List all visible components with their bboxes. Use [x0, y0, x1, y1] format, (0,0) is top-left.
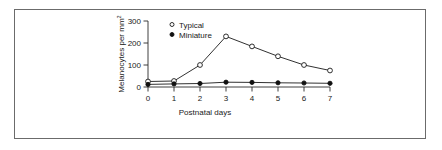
series-typical: [146, 34, 333, 84]
y-tick-label-200: 200: [128, 39, 142, 48]
x-tick-label-2: 2: [198, 94, 203, 103]
figure-container: 300 200 100 0 0 1 2 3 4 5 6 7 Postnatal …: [0, 0, 442, 150]
x-tick-label-1: 1: [172, 94, 177, 103]
data-point-miniature-day0: [146, 82, 150, 86]
data-point-miniature-day3: [224, 80, 228, 84]
x-tick-label-7: 7: [328, 94, 333, 103]
data-point-typical-day4: [250, 44, 255, 49]
y-axis-ticks: [144, 21, 149, 87]
data-point-typical-day2: [198, 63, 203, 68]
x-tick-label-0: 0: [146, 94, 151, 103]
data-point-miniature-day7: [328, 81, 332, 85]
x-axis-ticks: [148, 87, 330, 92]
data-point-typical-day6: [302, 63, 307, 68]
legend-marker-typical: [170, 23, 174, 27]
series-typical-line: [148, 36, 330, 81]
svg-text:Melanocytes per mm2: Melanocytes per mm2: [116, 15, 126, 92]
chart-canvas: 300 200 100 0 0 1 2 3 4 5 6 7 Postnatal …: [0, 0, 442, 150]
x-tick-label-5: 5: [276, 94, 281, 103]
data-point-typical-day3: [224, 34, 229, 39]
legend: Typical Miniature: [170, 21, 212, 40]
y-axis-title-text: Melanocytes per mm: [117, 18, 126, 93]
x-tick-label-3: 3: [224, 94, 229, 103]
data-point-miniature-day5: [276, 81, 280, 85]
x-tick-label-4: 4: [250, 94, 255, 103]
data-point-miniature-day2: [198, 81, 202, 85]
y-tick-label-0: 0: [137, 83, 142, 92]
x-axis-title: Postnatal days: [179, 108, 231, 117]
legend-marker-miniature: [170, 33, 174, 37]
y-axis-title: Melanocytes per mm2: [116, 15, 126, 92]
data-point-miniature-day1: [172, 82, 176, 86]
x-tick-label-6: 6: [302, 94, 307, 103]
y-axis-title-superscript: 2: [116, 15, 122, 18]
data-point-typical-day7: [328, 68, 333, 73]
y-tick-label-300: 300: [128, 17, 142, 26]
legend-label-miniature: Miniature: [179, 31, 212, 40]
y-tick-label-100: 100: [128, 61, 142, 70]
data-point-miniature-day4: [250, 80, 254, 84]
data-point-typical-day5: [276, 54, 281, 59]
data-point-miniature-day6: [302, 81, 306, 85]
legend-label-typical: Typical: [179, 21, 204, 30]
